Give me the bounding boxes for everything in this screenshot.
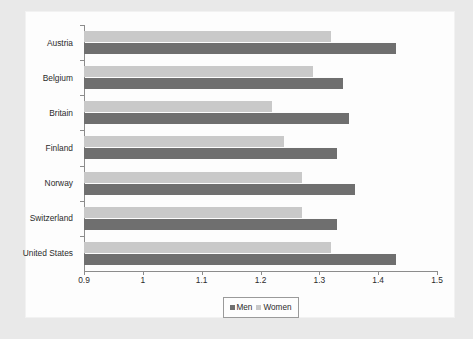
legend-label-women: Women [263,303,291,312]
bar-men-united-states [84,254,396,265]
bar-group-norway: Norway [84,166,437,201]
category-label-norway: Norway [0,179,73,187]
bar-men-norway [84,184,355,195]
bar-women-britain [84,101,272,112]
category-label-united-states: United States [0,249,73,257]
bar-group-finland: Finland [84,130,437,165]
category-tick [80,236,84,237]
plot-area: AustriaBelgiumBritainFinlandNorwaySwitze… [84,25,437,271]
bar-group-britain: Britain [84,95,437,130]
bar-men-britain [84,113,349,124]
category-tick [80,25,84,26]
value-tick-label: 0.9 [64,276,104,284]
bar-group-belgium: Belgium [84,60,437,95]
bar-women-austria [84,31,331,42]
value-tick-label: 1.1 [182,276,222,284]
figure-frame: AustriaBelgiumBritainFinlandNorwaySwitze… [0,0,473,339]
legend-entry-women: Women [256,304,291,312]
category-label-belgium: Belgium [0,74,73,82]
bar-men-austria [84,43,396,54]
category-tick [80,201,84,202]
bar-women-belgium [84,66,313,77]
value-tick-label: 1 [123,276,163,284]
bar-women-norway [84,172,302,183]
value-tick-label: 1.2 [241,276,281,284]
category-label-britain: Britain [0,109,73,117]
legend-entry-men: Men [230,304,253,312]
category-label-switzerland: Switzerland [0,214,73,222]
value-tick-label: 1.5 [417,276,457,284]
legend-swatch-men [230,305,235,310]
legend-label-men: Men [237,303,253,312]
category-label-austria: Austria [0,39,73,47]
bar-men-belgium [84,78,343,89]
bar-women-united-states [84,242,331,253]
value-tick-label: 1.3 [299,276,339,284]
chart-canvas: AustriaBelgiumBritainFinlandNorwaySwitze… [26,12,454,317]
bar-men-finland [84,148,337,159]
category-tick [80,60,84,61]
chart-legend: MenWomen [84,297,437,318]
category-tick [80,130,84,131]
bar-men-switzerland [84,219,337,230]
bar-women-finland [84,136,284,147]
category-label-finland: Finland [0,144,73,152]
category-tick [80,95,84,96]
category-tick [80,166,84,167]
bar-group-austria: Austria [84,25,437,60]
bar-group-united-states: United States [84,236,437,271]
value-tick-label: 1.4 [358,276,398,284]
legend-swatch-women [256,305,261,310]
bar-group-switzerland: Switzerland [84,201,437,236]
bar-women-switzerland [84,207,302,218]
legend-box: MenWomen [223,297,299,318]
